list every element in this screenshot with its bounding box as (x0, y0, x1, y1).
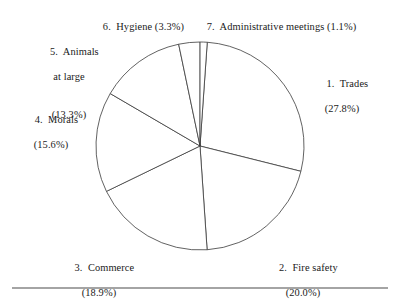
slice-label-trades-line2: (27.8%) (294, 103, 390, 116)
slice-label-administrative-meetings: 7. Administrative meetings (1.1%) (196, 8, 356, 46)
slice-label-trades: 1. Trades (27.8%) (294, 65, 390, 141)
slice-label-commerce-line1: 3. Commerce (75, 262, 135, 273)
slice-label-morals: 4. Morals (15.6%) (8, 101, 94, 177)
slice-label-morals-line2: (15.6%) (8, 139, 94, 152)
slice-label-fire-safety-line1: 2. Fire safety (279, 262, 338, 273)
pie-slices-group (96, 42, 304, 250)
slice-label-animals-at-large-line2: at large (22, 71, 116, 84)
slice-label-fire-safety-line2: (20.0%) (244, 287, 362, 300)
slice-label-animals-at-large-line1: 5. Animals (50, 46, 99, 57)
slice-label-commerce-line2: (18.9%) (40, 287, 158, 300)
slice-label-administrative-meetings-text: 7. Administrative meetings (1.1%) (207, 21, 356, 32)
slice-label-trades-line1: 1. Trades (327, 78, 369, 89)
slice-label-hygiene-text: 6. Hygiene (3.3%) (103, 21, 184, 32)
slice-label-morals-line1: 4. Morals (35, 114, 78, 125)
pie-chart-figure: 7. Administrative meetings (1.1%) 6. Hyg… (0, 0, 399, 304)
slice-label-fire-safety: 2. Fire safety (20.0%) (244, 249, 362, 304)
slice-label-commerce: 3. Commerce (18.9%) (40, 249, 158, 304)
